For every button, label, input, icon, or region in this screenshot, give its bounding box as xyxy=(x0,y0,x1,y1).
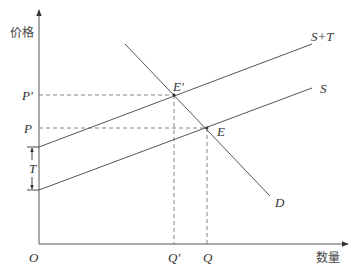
x-axis-label: 数量 xyxy=(316,252,340,264)
supply-label: S xyxy=(320,82,327,95)
dashed-guides xyxy=(39,95,207,244)
price-p-prime-label: P' xyxy=(22,89,33,102)
supply-demand-tax-diagram xyxy=(0,0,358,274)
demand-label: D xyxy=(275,196,284,209)
point-e-label: E xyxy=(217,125,225,138)
supply-plus-tax-label: S+T xyxy=(311,30,334,43)
quantity-q-label: Q xyxy=(203,251,212,264)
quantity-q-prime-label: Q' xyxy=(168,251,180,264)
point-e-prime-label: E' xyxy=(173,80,184,93)
price-p-label: P xyxy=(24,122,32,135)
supply-plus-tax-curve xyxy=(39,44,312,147)
supply-curve xyxy=(39,88,312,190)
point-e-prime-dot xyxy=(173,94,176,97)
point-e-dot xyxy=(206,127,209,130)
origin-label: O xyxy=(29,251,38,264)
tax-label: T xyxy=(28,162,37,175)
demand-curve xyxy=(125,44,270,196)
y-axis-label: 价格 xyxy=(10,27,34,39)
